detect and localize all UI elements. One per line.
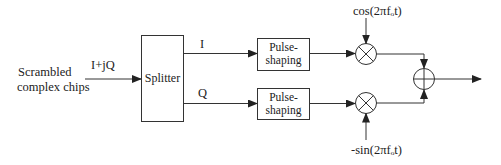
splitter-label: Splitter (141, 72, 184, 85)
pulse-shaping-top-line1: Pulse- (257, 41, 310, 54)
input-label-line1: Scrambled (18, 65, 71, 79)
multiply-icon (356, 93, 377, 114)
sum-icon (414, 69, 435, 90)
q-branch-label: Q (198, 86, 207, 100)
input-label-line2: complex chips (17, 80, 90, 94)
pulse-shaping-top-label: Pulse- shaping (257, 41, 310, 67)
pulse-shaping-bottom-label: Pulse- shaping (257, 91, 310, 117)
pulse-shaping-top-line2: shaping (257, 54, 310, 67)
upper-sum-path (377, 54, 425, 68)
multiply-icon (356, 44, 377, 65)
cos-carrier-label: cos(2πfₒt) (353, 4, 402, 18)
lower-sum-path (377, 90, 425, 103)
sin-carrier-label: -sin(2πfₒt) (351, 143, 402, 157)
pulse-shaping-bottom-line1: Pulse- (257, 91, 310, 104)
pulse-shaping-bottom-line2: shaping (257, 104, 310, 117)
i-branch-label: I (200, 37, 204, 51)
input-signal-label: I+jQ (91, 58, 115, 72)
